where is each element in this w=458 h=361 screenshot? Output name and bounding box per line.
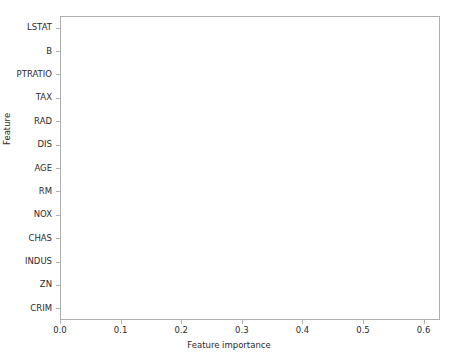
y-tick-mark (56, 168, 60, 169)
x-tick-mark (302, 320, 303, 324)
y-tick-mark (56, 98, 60, 99)
bar-tax (60, 90, 63, 106)
y-tick-mark (56, 215, 60, 216)
bar-age (60, 160, 65, 176)
y-tick-label-lstat: LSTAT (0, 23, 52, 32)
x-tick-label: 0.5 (348, 326, 378, 335)
y-tick-mark (56, 145, 60, 146)
x-tick-mark (60, 320, 61, 324)
bar-dis (60, 137, 115, 153)
y-tick-label-age: AGE (0, 164, 52, 173)
y-tick-mark (56, 121, 60, 122)
x-tick-mark (424, 320, 425, 324)
y-tick-label-zn: ZN (0, 280, 52, 289)
y-tick-label-rm: RM (0, 187, 52, 196)
x-tick-mark (121, 320, 122, 324)
x-tick-label: 0.4 (287, 326, 317, 335)
x-tick-label: 0.1 (106, 326, 136, 335)
y-tick-label-nox: NOX (0, 210, 52, 219)
y-tick-mark (56, 285, 60, 286)
x-tick-mark (363, 320, 364, 324)
x-tick-label: 0.2 (166, 326, 196, 335)
y-tick-mark (56, 28, 60, 29)
feature-importance-chart: LSTATBPTRATIOTAXRADDISAGERMNOXCHASINDUSZ… (0, 0, 458, 361)
bar-nox (60, 207, 70, 223)
y-tick-label-crim: CRIM (0, 304, 52, 313)
y-tick-mark (56, 308, 60, 309)
bar-crim (60, 300, 75, 316)
x-tick-label: 0.6 (409, 326, 439, 335)
y-tick-mark (56, 51, 60, 52)
x-tick-mark (181, 320, 182, 324)
bar-lstat (60, 20, 424, 36)
y-tick-mark (56, 238, 60, 239)
plot-area (60, 16, 440, 320)
x-tick-label: 0.3 (227, 326, 257, 335)
bar-rm (60, 183, 213, 199)
y-axis-title: Feature (2, 113, 12, 145)
y-tick-mark (56, 262, 60, 263)
x-tick-label: 0.0 (45, 326, 75, 335)
y-tick-mark (56, 191, 60, 192)
y-tick-label-b: B (0, 47, 52, 56)
y-tick-label-indus: INDUS (0, 257, 52, 266)
bar-ptratio (60, 66, 66, 82)
y-tick-mark (56, 74, 60, 75)
y-tick-label-chas: CHAS (0, 234, 52, 243)
y-tick-label-ptratio: PTRATIO (0, 70, 52, 79)
x-tick-mark (242, 320, 243, 324)
y-tick-label-tax: TAX (0, 93, 52, 102)
x-axis-title: Feature importance (0, 340, 458, 350)
